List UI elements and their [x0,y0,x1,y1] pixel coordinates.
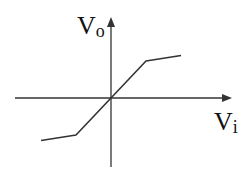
x-axis-arrowhead [222,94,232,102]
transfer-characteristic-diagram: Vo Vi [0,0,250,171]
y-axis-label: Vo [77,11,105,41]
x-axis-label: Vi [214,107,238,137]
y-axis-label-subscript: o [96,21,105,41]
x-axis-label-subscript: i [233,117,238,137]
y-axis-arrowhead [107,17,115,27]
